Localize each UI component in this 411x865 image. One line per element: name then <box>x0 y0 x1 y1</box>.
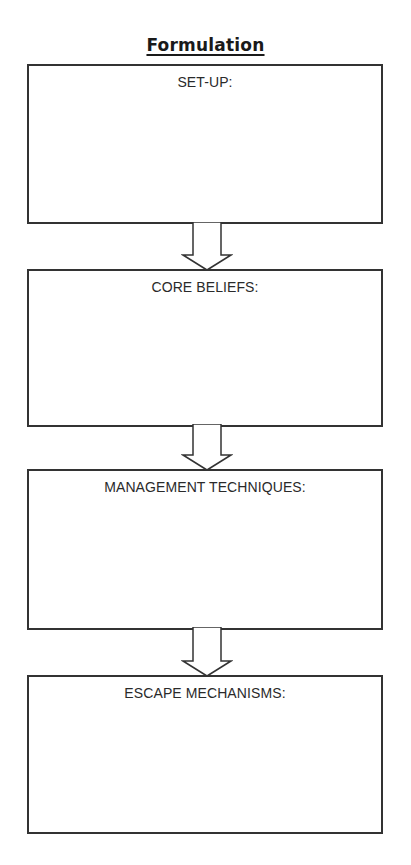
setup-box: SET-UP: <box>27 64 383 224</box>
escape-mechanisms-label: ESCAPE MECHANISMS: <box>29 685 381 701</box>
core-beliefs-label: CORE BELIEFS: <box>29 279 381 295</box>
management-techniques-box: MANAGEMENT TECHNIQUES: <box>27 469 383 630</box>
down-arrow-icon <box>181 627 233 678</box>
diagram-title: Formulation <box>0 35 411 55</box>
management-techniques-label: MANAGEMENT TECHNIQUES: <box>29 479 381 495</box>
down-arrow-icon <box>181 424 233 472</box>
setup-label: SET-UP: <box>29 74 381 90</box>
down-arrow-icon <box>181 222 233 272</box>
core-beliefs-box: CORE BELIEFS: <box>27 269 383 427</box>
escape-mechanisms-box: ESCAPE MECHANISMS: <box>27 675 383 834</box>
